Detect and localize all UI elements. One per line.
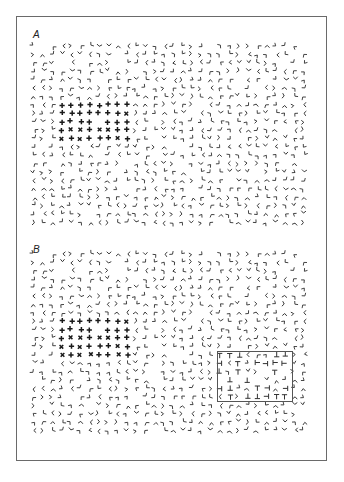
cross-element bbox=[105, 352, 110, 357]
l-element bbox=[72, 268, 76, 272]
l-element bbox=[230, 259, 233, 262]
l-element bbox=[209, 280, 213, 283]
l-element bbox=[274, 405, 278, 409]
l-element bbox=[208, 387, 212, 391]
l-element bbox=[274, 310, 277, 313]
l-element bbox=[156, 285, 160, 289]
l-element bbox=[125, 422, 128, 425]
l-element bbox=[134, 367, 138, 371]
l-element bbox=[202, 343, 205, 347]
cross-element bbox=[58, 343, 65, 350]
l-element bbox=[96, 294, 100, 298]
l-element bbox=[32, 277, 35, 280]
cross-element bbox=[86, 344, 91, 349]
l-element bbox=[109, 411, 112, 414]
l-element bbox=[170, 405, 173, 409]
l-element bbox=[180, 405, 184, 409]
l-element bbox=[221, 270, 224, 273]
l-element bbox=[62, 314, 65, 317]
l-element bbox=[152, 405, 156, 409]
l-element bbox=[188, 428, 191, 431]
l-element bbox=[128, 252, 132, 256]
cross-element bbox=[114, 342, 121, 349]
l-element bbox=[237, 405, 241, 409]
l-element bbox=[145, 413, 149, 416]
l-element bbox=[88, 363, 91, 366]
l-element bbox=[235, 252, 239, 256]
l-element bbox=[273, 251, 276, 254]
l-element bbox=[227, 314, 230, 317]
l-element bbox=[301, 280, 304, 283]
l-element bbox=[134, 422, 137, 425]
l-element bbox=[303, 422, 307, 426]
l-element bbox=[143, 319, 146, 322]
l-element bbox=[142, 292, 145, 295]
l-element bbox=[246, 275, 250, 279]
l-element bbox=[133, 351, 137, 355]
l-element bbox=[116, 280, 120, 284]
l-element bbox=[200, 268, 204, 272]
l-element bbox=[191, 293, 194, 296]
l-element bbox=[40, 319, 43, 322]
l-element bbox=[90, 272, 93, 275]
l-element bbox=[40, 337, 44, 341]
l-element bbox=[161, 333, 165, 337]
l-element bbox=[38, 345, 42, 349]
cross-element bbox=[124, 327, 129, 332]
l-element bbox=[283, 313, 287, 317]
l-element bbox=[290, 312, 294, 316]
cross-element bbox=[96, 352, 101, 357]
l-element bbox=[190, 352, 193, 355]
l-element bbox=[216, 310, 220, 313]
l-element bbox=[191, 375, 195, 379]
l-element bbox=[161, 422, 164, 425]
l-element bbox=[163, 320, 167, 324]
l-element bbox=[33, 413, 36, 416]
l-element bbox=[52, 312, 55, 315]
l-element bbox=[43, 311, 47, 315]
l-element bbox=[244, 427, 248, 430]
l-element bbox=[105, 431, 108, 434]
l-element bbox=[137, 347, 140, 350]
l-element bbox=[68, 412, 72, 415]
l-element bbox=[107, 372, 110, 375]
l-element bbox=[150, 353, 154, 357]
l-element bbox=[295, 321, 298, 324]
l-element bbox=[284, 328, 288, 332]
l-element bbox=[303, 372, 306, 375]
l-element bbox=[275, 329, 278, 332]
l-element bbox=[128, 361, 131, 365]
l-element bbox=[70, 360, 74, 364]
l-element bbox=[128, 268, 131, 271]
l-element bbox=[235, 276, 239, 280]
l-element bbox=[216, 261, 219, 265]
l-element bbox=[263, 263, 266, 266]
l-element bbox=[282, 321, 285, 324]
l-element bbox=[206, 361, 210, 365]
l-element bbox=[49, 352, 52, 355]
l-element bbox=[109, 296, 112, 299]
l-element bbox=[219, 287, 223, 290]
l-element bbox=[115, 312, 119, 316]
l-element bbox=[265, 253, 269, 257]
l-element bbox=[91, 250, 94, 254]
l-element bbox=[88, 295, 92, 299]
l-element bbox=[179, 388, 182, 391]
l-element bbox=[239, 321, 242, 324]
l-element bbox=[43, 377, 46, 380]
l-element bbox=[34, 429, 38, 433]
l-element bbox=[255, 263, 258, 266]
l-element bbox=[155, 335, 158, 338]
l-element bbox=[173, 269, 177, 273]
cross-element bbox=[68, 352, 73, 357]
l-element bbox=[193, 361, 196, 365]
l-element bbox=[226, 330, 229, 333]
l-element bbox=[273, 301, 276, 304]
l-element bbox=[160, 277, 164, 280]
l-element bbox=[164, 377, 167, 380]
l-element bbox=[265, 325, 269, 329]
l-element bbox=[172, 308, 176, 312]
l-element bbox=[152, 395, 155, 398]
l-element bbox=[31, 284, 34, 287]
l-element bbox=[246, 338, 250, 342]
